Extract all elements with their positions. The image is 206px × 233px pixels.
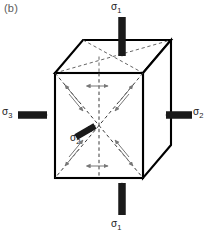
sigma1-top-subscript: 1 xyxy=(117,6,121,15)
stress-cube-svg xyxy=(0,0,206,233)
sigma3-left-label: σ3 xyxy=(2,106,12,120)
sigma1-bottom-subscript: 1 xyxy=(117,223,121,232)
sigma1-bottom-label: σ1 xyxy=(111,218,121,232)
sigma2-right-subscript: 2 xyxy=(199,111,203,120)
sigma2-center-subscript: 2 xyxy=(76,137,80,146)
stress-cube-figure: (b) σ1 σ1 σ3 σ2 σ2 xyxy=(0,0,206,233)
sigma3-left-subscript: 3 xyxy=(8,111,12,120)
sigma2-center-label: σ2 xyxy=(70,132,80,146)
sigma2-right-label: σ2 xyxy=(193,106,203,120)
sigma1-top-label: σ1 xyxy=(111,1,121,15)
panel-label: (b) xyxy=(4,2,18,14)
